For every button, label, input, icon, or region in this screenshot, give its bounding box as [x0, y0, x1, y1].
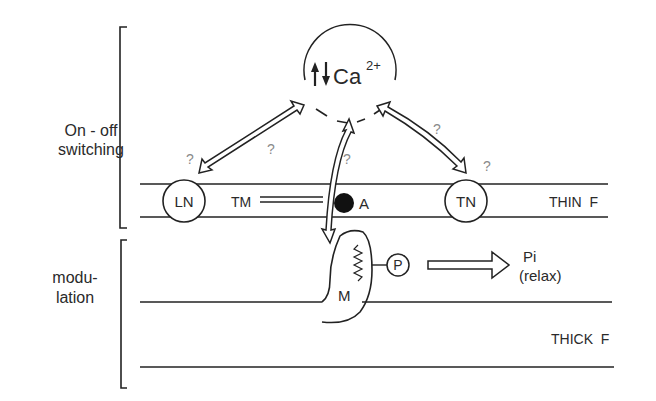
- arrow-ca-ln: [199, 101, 304, 173]
- question-mark-ca-tn: ?: [433, 121, 441, 137]
- relax-label: (relax): [519, 267, 562, 284]
- phosphate-label: P: [393, 257, 402, 273]
- bracket-modulation: [121, 240, 127, 388]
- spring-icon: [354, 245, 362, 281]
- pi-label: Pi: [523, 248, 536, 265]
- actin-label: A: [359, 195, 369, 212]
- ln-label: LN: [174, 193, 193, 210]
- thick-filament: [140, 302, 614, 367]
- label-modulation-line1: modu-: [52, 269, 97, 286]
- bracket-on-off: [120, 27, 127, 228]
- label-on-off-line2: switching: [58, 141, 124, 158]
- thin-filament: [140, 184, 608, 217]
- label-thick-f: THICK F: [551, 331, 609, 347]
- phosphate-node: P: [387, 254, 409, 276]
- myosin-label: M: [338, 287, 351, 304]
- tropomyosin-lines: [260, 197, 323, 202]
- actin-dot: [334, 193, 354, 213]
- calcium-superscript: 2+: [366, 58, 381, 73]
- label-modulation-line2: lation: [56, 289, 94, 306]
- arrow-ca-myosin: [322, 119, 354, 243]
- tn-node: TN: [445, 180, 487, 222]
- calcium-label: Ca: [333, 64, 362, 89]
- arrow-ca-tn: [377, 102, 466, 173]
- tm-label: TM: [231, 194, 251, 210]
- ln-node: LN: [163, 180, 205, 222]
- tn-label: TN: [456, 193, 476, 210]
- label-thin-f: THIN F: [549, 194, 598, 210]
- diagram-canvas: On - off switching modu- lation THIN F T…: [0, 0, 656, 401]
- up-down-arrows-icon: [311, 62, 330, 86]
- question-mark-ln: ?: [186, 151, 194, 167]
- arrow-p-to-pi: [428, 252, 509, 278]
- question-mark-ca-ln: ?: [267, 141, 275, 157]
- label-on-off-line1: On - off: [64, 122, 118, 139]
- question-mark-tn: ?: [483, 158, 491, 174]
- question-mark-ca-m: ?: [343, 151, 351, 167]
- myosin-head: M: [322, 231, 372, 323]
- diagram-svg: On - off switching modu- lation THIN F T…: [0, 0, 656, 401]
